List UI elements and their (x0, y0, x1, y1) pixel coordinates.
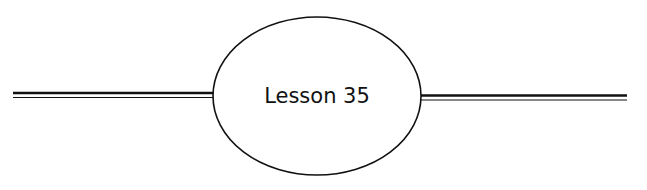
lesson-title: Lesson 35 (213, 17, 421, 175)
lesson-title-text: Lesson 35 (264, 84, 370, 108)
left-double-rule (13, 93, 214, 98)
right-double-rule (421, 96, 627, 101)
